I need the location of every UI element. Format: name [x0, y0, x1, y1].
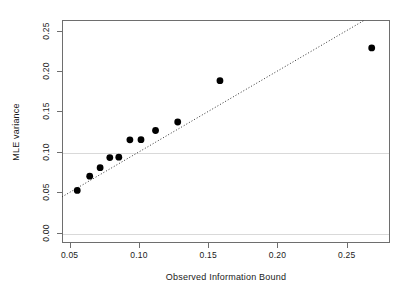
reference-line	[62, 20, 365, 197]
data-point	[127, 136, 134, 143]
data-point	[152, 127, 159, 134]
x-axis-tick	[277, 243, 278, 248]
x-axis-tick	[347, 243, 348, 248]
x-axis-tick	[70, 243, 71, 248]
x-axis-title: Observed Information Bound	[62, 272, 390, 282]
y-tick-label: 0.05	[0, 186, 54, 198]
data-point	[97, 164, 104, 171]
x-axis-tick	[208, 243, 209, 248]
y-axis-title: MLE variance	[9, 20, 23, 243]
x-tick-label: 0.20	[257, 250, 297, 260]
y-tick-label: 0.10	[0, 146, 54, 158]
data-point	[74, 187, 81, 194]
x-tick-label: 0.05	[50, 250, 90, 260]
x-tick-label: 0.15	[188, 250, 228, 260]
scatter-plot-figure: MLE variance 0.00 0.05 0.10 0.15 0.20 0.…	[0, 0, 408, 298]
x-tick-label: 0.25	[327, 250, 367, 260]
plot-data-area	[62, 20, 390, 243]
data-point	[115, 154, 122, 161]
x-tick-label: 0.10	[119, 250, 159, 260]
y-tick-label: 0.25	[0, 25, 54, 37]
data-point	[217, 77, 224, 84]
y-tick-label: 0.15	[0, 105, 54, 117]
data-point	[106, 154, 113, 161]
data-point	[368, 45, 375, 52]
y-tick-label: 0.00	[0, 227, 54, 239]
data-point	[138, 136, 145, 143]
data-point	[86, 173, 93, 180]
data-point	[174, 119, 181, 126]
x-axis-tick	[139, 243, 140, 248]
y-tick-label: 0.20	[0, 65, 54, 77]
